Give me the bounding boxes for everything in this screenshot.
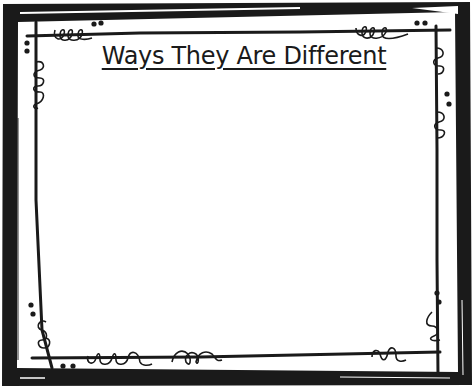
writing-area[interactable] bbox=[50, 85, 425, 345]
page-title: Ways They Are Different bbox=[0, 42, 474, 70]
page-title-text: Ways They Are Different bbox=[88, 42, 387, 70]
worksheet-page: Ways They Are Different bbox=[0, 0, 474, 387]
